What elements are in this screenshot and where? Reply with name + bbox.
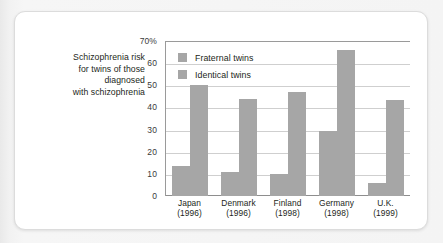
x-axis-label-year: (1999): [361, 208, 410, 218]
y-axis-tick-label: 30: [147, 125, 157, 135]
x-axis-label-name: U.K.: [361, 198, 410, 208]
figure-root: Schizophrenia risk for twins of those di…: [0, 0, 443, 243]
bar-identical: [239, 99, 257, 196]
x-axis-label-name: Finland: [263, 198, 312, 208]
bar-identical: [337, 50, 355, 196]
x-axis-label: Germany(1998): [312, 198, 361, 219]
legend-label: Fraternal twins: [193, 53, 255, 63]
x-axis-label-year: (1996): [165, 208, 214, 218]
bar-identical: [386, 100, 404, 196]
y-axis: 70%6050403020100: [127, 41, 161, 196]
y-axis-tick-label: 20: [147, 147, 157, 157]
x-axis-label: U.K.(1999): [361, 198, 410, 219]
x-axis-label-year: (1998): [263, 208, 312, 218]
bar-identical: [288, 92, 306, 196]
legend-label: Identical twins: [193, 70, 253, 80]
x-axis-label-name: Denmark: [214, 198, 263, 208]
x-axis-label-year: (1998): [312, 208, 361, 218]
chart-legend: Fraternal twins Identical twins: [178, 50, 255, 84]
legend-item-fraternal: Fraternal twins: [178, 50, 255, 65]
x-axis-label-name: Germany: [312, 198, 361, 208]
bar-group: [312, 42, 361, 196]
legend-item-identical: Identical twins: [178, 67, 255, 82]
x-axis-label-name: Japan: [165, 198, 214, 208]
legend-swatch-icon: [178, 53, 187, 62]
bar-fraternal: [172, 166, 190, 196]
plot-area: Fraternal twins Identical twins: [165, 41, 410, 196]
bar-group: [361, 42, 410, 196]
x-axis-label: Japan(1996): [165, 198, 214, 219]
y-axis-tick-label: 50: [147, 80, 157, 90]
x-axis-label: Finland(1998): [263, 198, 312, 219]
y-axis-tick-label: 40: [147, 102, 157, 112]
bar-identical: [190, 85, 208, 196]
legend-swatch-icon: [178, 70, 187, 79]
y-axis-tick-label: 60: [147, 58, 157, 68]
bar-fraternal: [368, 183, 386, 196]
y-axis-tick-label: 70%: [140, 36, 157, 46]
y-axis-tick-label: 10: [147, 169, 157, 179]
bar-fraternal: [319, 131, 337, 196]
y-axis-tick-label: 0: [152, 191, 157, 201]
bar-group: [264, 42, 313, 196]
figure-card: Schizophrenia risk for twins of those di…: [14, 11, 428, 230]
bar-fraternal: [221, 172, 239, 196]
x-axis: Japan(1996)Denmark(1996)Finland(1998)Ger…: [165, 198, 410, 219]
x-axis-label-year: (1996): [214, 208, 263, 218]
x-axis-label: Denmark(1996): [214, 198, 263, 219]
bar-fraternal: [270, 174, 288, 196]
